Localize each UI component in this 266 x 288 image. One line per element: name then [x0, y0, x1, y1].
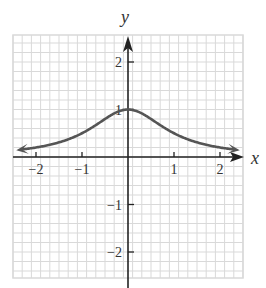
- axes: [13, 36, 244, 288]
- y-axis-label: y: [119, 7, 129, 27]
- x-tick-label: −2: [29, 162, 44, 177]
- y-tick-label: −2: [107, 245, 122, 260]
- x-tick-label: −1: [75, 162, 90, 177]
- x-tick-label: 2: [217, 162, 224, 177]
- y-tick-label: 2: [115, 55, 122, 70]
- x-tick-label: 1: [171, 162, 178, 177]
- function-graph: −2−11221−1−2 x y: [0, 0, 266, 288]
- y-tick-label: −1: [107, 198, 122, 213]
- x-axis-label: x: [250, 148, 259, 168]
